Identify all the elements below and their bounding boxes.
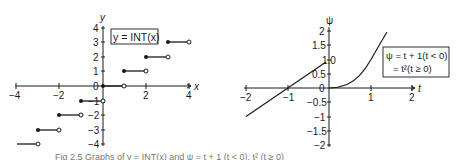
int-xtick-m4: −4 bbox=[9, 90, 21, 101]
int-xtick-2: 2 bbox=[143, 90, 149, 101]
psi-ytick-m2: −2 bbox=[314, 140, 326, 151]
int-ytick-3: 3 bbox=[93, 37, 99, 48]
psi-ytick-m1: −1 bbox=[314, 112, 326, 123]
int-legend: y = INT(x) bbox=[113, 31, 159, 43]
int-ytick-m4: −4 bbox=[88, 139, 100, 150]
figure-canvas: y x y = INT(x) −4 −2 2 4 4 3 2 1 0 −1 −2… bbox=[0, 0, 459, 160]
int-function-plot bbox=[15, 26, 191, 146]
int-ytick-2: 2 bbox=[93, 52, 99, 63]
psi-xtick-2: 2 bbox=[409, 92, 415, 103]
int-ytick-0: 0 bbox=[93, 81, 99, 92]
int-ytick-m2: −2 bbox=[88, 110, 100, 121]
psi-xtick-m2: −2 bbox=[240, 92, 252, 103]
int-xtick-m2: −2 bbox=[53, 90, 65, 101]
psi-ytick-m1-5: −1.5 bbox=[307, 126, 327, 137]
psi-ytick-m0-5: −0.5 bbox=[307, 97, 327, 108]
int-ytick-4: 4 bbox=[93, 23, 99, 34]
psi-xtick-1: 1 bbox=[368, 92, 374, 103]
psi-ylabel: ψ bbox=[326, 15, 333, 26]
psi-ytick-2: 2 bbox=[319, 26, 325, 37]
int-ytick-1: 1 bbox=[93, 66, 99, 77]
int-ytick-m3: −3 bbox=[88, 125, 100, 136]
int-ytick-m1: −1 bbox=[88, 96, 100, 107]
int-xtick-4: 4 bbox=[186, 90, 192, 101]
quadratic-branch bbox=[329, 32, 387, 88]
psi-ytick-0: 0 bbox=[319, 83, 325, 94]
psi-xtick-m1: −1 bbox=[283, 92, 295, 103]
psi-ytick-1: 1.0 bbox=[322, 55, 336, 66]
psi-ytick-0-5: 0.5 bbox=[312, 69, 326, 80]
psi-legend-line2: = t²(t ≥ 0) bbox=[393, 63, 432, 74]
int-ylabel: y bbox=[99, 12, 106, 23]
psi-xlabel: t bbox=[418, 83, 422, 94]
figure-caption: Fig 2.5 Graphs of y = INT(x) and ψ = t +… bbox=[55, 152, 284, 160]
int-xlabel: x bbox=[193, 81, 200, 92]
psi-ytick-1-5: 1.5 bbox=[312, 40, 326, 51]
psi-legend-line1: ψ = t + 1(t < 0) bbox=[386, 50, 447, 61]
